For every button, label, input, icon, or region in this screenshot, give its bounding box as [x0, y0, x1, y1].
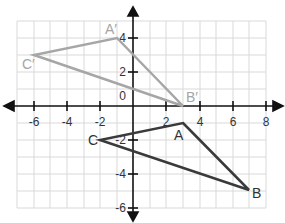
- point-label-c-prime: C′: [22, 56, 35, 72]
- x-axis-right-arrow-icon: [273, 101, 283, 111]
- graph-svg: -6 -4 -2 2 4 6 8 4 2 -2 -4 -6 0 A′ B′ C′…: [0, 0, 285, 223]
- y-axis-up-arrow-icon: [128, 7, 138, 16]
- point-label-a-prime: A′: [105, 21, 117, 37]
- y-axis-down-arrow-icon: [128, 212, 138, 221]
- axes: [4, 7, 283, 221]
- x-axis-left-arrow-icon: [4, 101, 14, 111]
- x-tick-label: 6: [230, 115, 237, 129]
- point-label-a: A: [174, 127, 184, 143]
- origin-label: 0: [119, 89, 126, 103]
- y-tick-label: -6: [115, 201, 126, 215]
- x-tick-label: -6: [29, 115, 40, 129]
- point-label-b: B: [252, 185, 261, 201]
- x-tick-label: 8: [263, 115, 270, 129]
- y-tick-label: -4: [115, 167, 126, 181]
- x-tick-labels: -6 -4 -2 2 4 6 8: [29, 115, 270, 129]
- x-tick-label: -4: [62, 115, 73, 129]
- point-label-c: C: [88, 132, 98, 148]
- x-tick-label: -2: [95, 115, 106, 129]
- grid: [17, 21, 266, 208]
- x-tick-label: 4: [197, 115, 204, 129]
- point-label-b-prime: B′: [186, 89, 198, 105]
- coordinate-plane: -6 -4 -2 2 4 6 8 4 2 -2 -4 -6 0 A′ B′ C′…: [0, 0, 285, 223]
- y-tick-label: 2: [119, 65, 126, 79]
